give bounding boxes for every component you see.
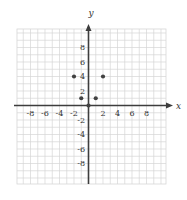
y-tick-label: 4 [80, 72, 85, 81]
y-tick-label: -8 [77, 159, 85, 168]
y-tick-label: -6 [77, 145, 85, 154]
y-tick-label: 6 [80, 58, 85, 67]
data-point [79, 96, 83, 100]
data-point [86, 103, 90, 107]
y-axis-label: y [87, 8, 94, 18]
y-tick-label: 2 [80, 87, 85, 96]
data-point [94, 96, 98, 100]
coordinate-plane-figure: -8-6-4-224688642-2-4-6-8xy [0, 0, 187, 200]
y-tick-label: -4 [77, 130, 85, 139]
x-tick-label: 2 [100, 109, 105, 118]
x-tick-label: 4 [115, 109, 120, 118]
y-tick-label: -2 [77, 116, 85, 125]
x-tick-label: -8 [27, 109, 35, 118]
coordinate-plane: -8-6-4-224688642-2-4-6-8xy [0, 0, 187, 200]
x-axis-label: x [176, 101, 181, 111]
figure-background [0, 0, 187, 200]
data-point [101, 74, 105, 78]
x-tick-label: -6 [41, 109, 49, 118]
data-point [72, 74, 76, 78]
x-tick-label: 8 [144, 109, 149, 118]
y-tick-label: 8 [80, 43, 85, 52]
x-tick-label: -4 [56, 109, 64, 118]
x-tick-label: 6 [129, 109, 134, 118]
